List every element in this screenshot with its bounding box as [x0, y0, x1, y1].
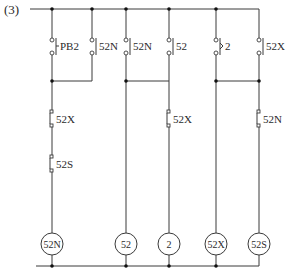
contact-label-52n-nc: 52N: [263, 113, 282, 125]
terminal-icon: [50, 124, 53, 127]
junction-dot-icon: [124, 264, 128, 268]
terminal-icon: [167, 51, 171, 55]
terminal-icon: [50, 51, 54, 55]
junction-dot-icon: [214, 7, 218, 11]
terminal-icon: [257, 110, 260, 113]
terminal-icon: [124, 51, 128, 55]
circuit-drawing: (3): [0, 0, 286, 274]
contact-label-52n-2: 52N: [133, 40, 152, 52]
junction-dot-icon: [124, 79, 128, 83]
terminal-icon: [50, 110, 53, 113]
terminal-icon: [50, 38, 54, 42]
terminal-icon: [214, 51, 218, 55]
coil-label-2: 2: [167, 239, 172, 250]
junction-dot-icon: [50, 79, 54, 83]
rung-52X: [205, 9, 227, 266]
terminal-icon: [90, 38, 94, 42]
terminal-icon: [214, 38, 218, 42]
diagram-number-label: (3): [4, 2, 19, 17]
terminal-icon: [257, 38, 261, 42]
terminal-icon: [167, 110, 170, 113]
coil-label-52x: 52X: [207, 239, 225, 250]
contact-label-timer-2: 2: [225, 40, 231, 52]
contact-label-52n: 52N: [99, 40, 118, 52]
terminal-icon: [50, 155, 53, 158]
ladder-diagram: (3): [0, 0, 286, 274]
terminal-icon: [90, 51, 94, 55]
contact-label-52x: 52X: [266, 40, 285, 52]
junction-dot-icon: [257, 79, 261, 83]
junction-dot-icon: [167, 264, 171, 268]
junction-dot-icon: [90, 7, 94, 11]
contact-label-52s-nc: 52S: [56, 158, 73, 170]
terminal-icon: [167, 38, 171, 42]
terminal-icon: [257, 51, 261, 55]
contact-label-52x-nc-2: 52X: [173, 113, 192, 125]
contact-label-52x-nc: 52X: [56, 113, 75, 125]
junction-dot-icon: [214, 264, 218, 268]
terminal-icon: [167, 124, 170, 127]
junction-dot-icon: [50, 7, 54, 11]
coil-label-52: 52: [121, 239, 131, 250]
coil-label-52s: 52S: [251, 239, 267, 250]
junction-dot-icon: [214, 79, 218, 83]
terminal-icon: [50, 169, 53, 172]
junction-dot-icon: [124, 7, 128, 11]
terminal-icon: [257, 124, 260, 127]
contact-label-pb2: PB2: [60, 40, 79, 52]
contact-label-52: 52: [176, 40, 187, 52]
junction-dot-icon: [50, 264, 54, 268]
junction-dot-icon: [167, 7, 171, 11]
coil-label-52n: 52N: [43, 239, 60, 250]
terminal-icon: [124, 38, 128, 42]
